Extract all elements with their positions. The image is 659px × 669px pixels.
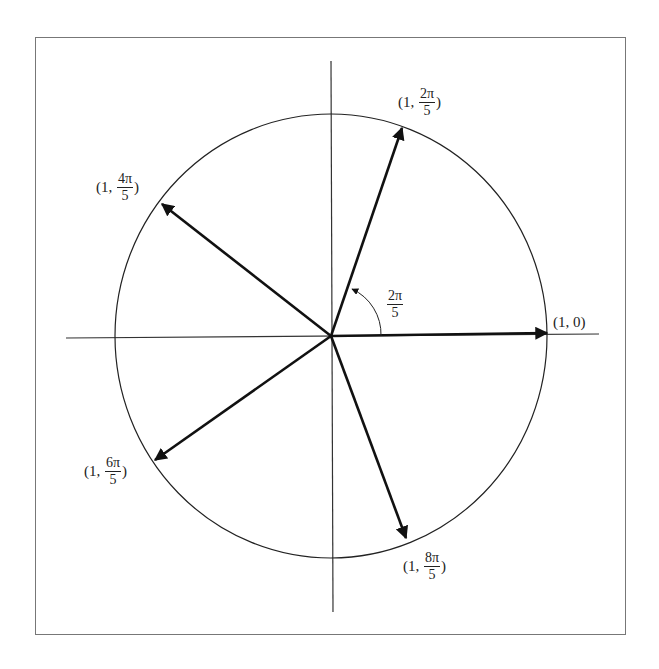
point-label-prefix: (1,	[398, 95, 414, 110]
point-label-suffix: )	[441, 559, 446, 574]
point-label-numerator: 4π	[117, 172, 133, 188]
point-label-suffix: )	[134, 180, 139, 195]
point-label-numerator: 8π	[424, 551, 440, 567]
point-label-numerator: 6π	[105, 456, 121, 472]
point-label-numerator: 2π	[419, 87, 435, 103]
point-label-denominator: 5	[110, 472, 117, 487]
point-label-suffix: )	[122, 464, 127, 479]
point-label-denominator: 5	[429, 567, 436, 582]
point-label-value: 0	[573, 315, 581, 330]
point-label-0: (1, 0)	[553, 315, 586, 330]
point-label-prefix: (1,	[84, 464, 100, 479]
angle-label: 2π5	[386, 289, 404, 320]
point-label-prefix: (1,	[403, 559, 419, 574]
vector-angle-0	[331, 333, 547, 336]
point-label-suffix: )	[436, 95, 441, 110]
point-label-denominator: 5	[122, 188, 129, 203]
point-label-6pi-5: (1, 6π5)	[84, 456, 127, 487]
point-label-4pi-5: (1, 4π5)	[96, 172, 139, 203]
polar-diagram	[0, 0, 659, 669]
point-label-prefix: (1,	[553, 315, 569, 330]
vector-angle-6pi-5	[155, 336, 331, 460]
point-label-suffix: )	[581, 315, 586, 330]
point-label-prefix: (1,	[96, 180, 112, 195]
angle-arc	[352, 289, 381, 336]
vector-angle-4pi-5	[162, 204, 331, 336]
point-label-8pi-5: (1, 8π5)	[403, 551, 446, 582]
angle-label-numerator: 2π	[387, 289, 403, 305]
vector-angle-8pi-5	[331, 336, 406, 538]
point-label-denominator: 5	[424, 103, 431, 118]
point-label-2pi-5: (1, 2π5)	[398, 87, 441, 118]
angle-label-denominator: 5	[392, 305, 399, 320]
